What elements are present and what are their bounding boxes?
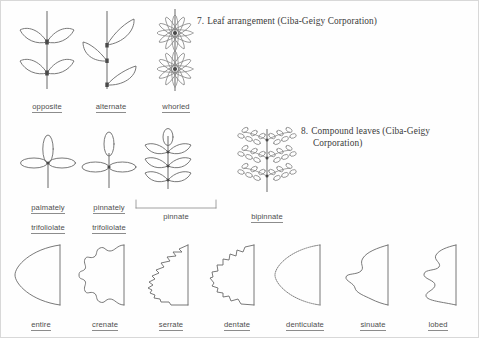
diagram-bipinnate <box>233 125 301 193</box>
diagram-denticulate <box>273 244 331 306</box>
label-sinuate: sinuate <box>337 311 409 331</box>
caption-figure-8: 8.Compound leaves (Ciba-Geigy Corporatio… <box>301 125 473 149</box>
label-opposite: opposite <box>11 93 83 113</box>
diagram-alternate <box>81 9 141 91</box>
diagram-crenate <box>77 244 135 306</box>
label-whorled: whorled <box>141 93 211 113</box>
label-bipinnate: bipinnate <box>230 203 304 223</box>
label-pinnate: pinnate <box>140 203 212 222</box>
caption-7-number: 7. <box>197 16 204 26</box>
diagram-palmately-trifoliolate <box>17 133 79 189</box>
diagram-pinnately-trifoliolate <box>78 131 140 189</box>
diagram-pinnate <box>140 128 196 190</box>
diagram-entire <box>13 244 71 306</box>
diagram-serrate <box>141 244 199 306</box>
label-alternate: alternate <box>75 93 147 113</box>
label-denticulate: denticulate <box>265 311 345 331</box>
label-dentate: dentate <box>201 311 273 331</box>
diagram-opposite <box>15 9 79 91</box>
caption-8-number: 8. <box>301 126 308 136</box>
label-entire: entire <box>5 311 77 331</box>
label-crenate: crenate <box>69 311 141 331</box>
diagram-sinuate <box>341 244 399 306</box>
caption-8-text-line1: Compound leaves (Ciba-Geigy <box>311 126 430 136</box>
diagram-dentate <box>207 244 265 306</box>
diagram-lobed <box>409 244 467 306</box>
label-serrate: serrate <box>135 311 207 331</box>
label-lobed: lobed <box>405 311 471 331</box>
caption-figure-7: 7.Leaf arrangement (Ciba-Geigy Corporati… <box>197 15 467 27</box>
caption-8-text-line2: Corporation) <box>313 138 362 148</box>
caption-7-text: Leaf arrangement (Ciba-Geigy Corporation… <box>207 16 377 26</box>
figure-page: opposite alternate whorled 7.Leaf arrang… <box>0 0 479 338</box>
